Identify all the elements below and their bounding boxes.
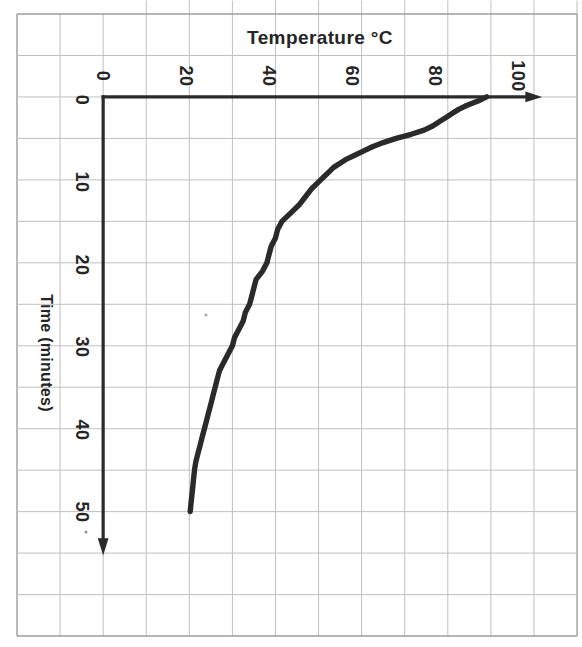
temperature-tick-label: 60 xyxy=(341,65,362,86)
temperature-tick-label: 0 xyxy=(92,71,113,82)
cooling-curve-chart: Temperature °C Time (minutes) 0204060801… xyxy=(0,0,582,647)
time-tick-label: 0 xyxy=(71,95,92,106)
scan-speck xyxy=(85,531,88,534)
temperature-tick-label: 80 xyxy=(424,65,445,86)
temperature-tick-label: 20 xyxy=(175,65,196,86)
scan-speck xyxy=(205,314,208,317)
time-tick-label: 50 xyxy=(71,501,92,522)
chart-title: Temperature °C xyxy=(247,27,393,49)
time-tick-label: 20 xyxy=(71,254,92,275)
time-tick-label: 40 xyxy=(71,419,92,440)
time-tick-label: 30 xyxy=(71,337,92,358)
temperature-tick-label: 40 xyxy=(258,65,279,86)
time-tick-label: 10 xyxy=(71,172,92,193)
temperature-tick-label: 100 xyxy=(507,60,528,92)
time-axis-label: Time (minutes) xyxy=(37,294,55,412)
